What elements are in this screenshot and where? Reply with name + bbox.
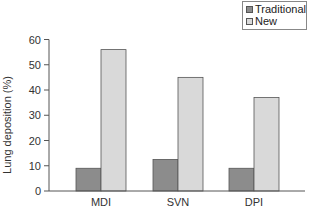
x-tick-label: MDI [91, 196, 111, 208]
legend-label-new: New [255, 15, 277, 27]
bar-new-svn [178, 77, 203, 191]
legend-item-traditional: Traditional [246, 3, 306, 15]
legend-swatch-new [246, 18, 253, 25]
bar-traditional-dpi [229, 168, 254, 191]
y-axis: 0102030405060 [29, 34, 49, 198]
x-tick-label: SVN [167, 196, 190, 208]
y-tick-label: 10 [29, 160, 41, 172]
y-tick-label: 40 [29, 84, 41, 96]
bar-traditional-svn [153, 159, 178, 191]
legend: Traditional New [242, 1, 307, 30]
y-tick-label: 20 [29, 135, 41, 147]
y-axis-label: Lung deposition (%) [0, 60, 14, 190]
bar-new-dpi [254, 98, 279, 191]
bar-chart: 0102030405060 MDISVNDPI [0, 0, 313, 213]
y-tick-label: 50 [29, 59, 41, 71]
legend-label-traditional: Traditional [255, 3, 306, 15]
y-tick-label: 0 [35, 185, 41, 197]
x-axis: MDISVNDPI [49, 191, 305, 208]
x-tick-label: DPI [245, 196, 263, 208]
bar-new-mdi [101, 50, 126, 191]
legend-item-new: New [246, 15, 306, 27]
y-tick-label: 60 [29, 34, 41, 46]
bar-traditional-mdi [76, 168, 101, 191]
bars [76, 50, 279, 191]
y-axis-label-text: Lung deposition (%) [1, 76, 13, 174]
y-tick-label: 30 [29, 109, 41, 121]
legend-swatch-traditional [246, 6, 253, 13]
